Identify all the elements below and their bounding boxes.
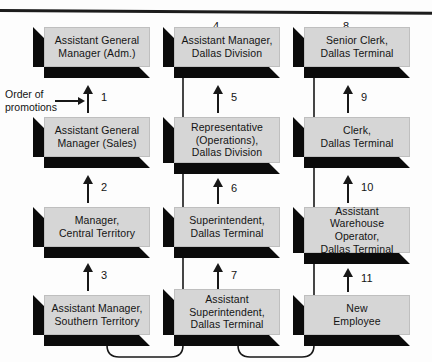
- job-box: Senior Clerk, Dallas Terminal: [293, 27, 410, 78]
- job-box: New Employee: [293, 295, 410, 346]
- job-title-label: Assistant General Manager (Adm.): [44, 27, 150, 67]
- job-title-label: Assistant Superintendent, Dallas Termina…: [174, 289, 280, 335]
- promotion-ladder-diagram: Assistant General Manager (Adm.) 1 Assis…: [0, 0, 432, 362]
- promotion-arrow: [207, 85, 229, 113]
- job-title-label: Assistant Manager, Dallas Division: [174, 27, 280, 67]
- job-title-label: Superintendent, Dallas Terminal: [174, 207, 280, 247]
- job-box: Manager, Central Territory: [33, 207, 150, 258]
- step-number-label: 5: [231, 91, 237, 103]
- job-box: Representative (Operations), Dallas Divi…: [163, 117, 280, 174]
- order-of-promotions-arrow: [55, 96, 85, 106]
- promotion-arrow: [337, 85, 359, 113]
- job-title-label: Clerk, Dallas Terminal: [304, 117, 410, 157]
- job-box: Clerk, Dallas Terminal: [293, 117, 410, 168]
- job-box: Assistant General Manager (Sales): [33, 117, 150, 168]
- step-number-label: 10: [361, 181, 374, 193]
- job-box: Assistant Warehouse Operator, Dallas Ter…: [293, 207, 410, 264]
- job-title-label: Manager, Central Territory: [44, 207, 150, 247]
- step-number-label: 9: [361, 91, 367, 103]
- promotion-arrow: [77, 175, 99, 203]
- job-box: Assistant General Manager (Adm.): [33, 27, 150, 78]
- promotion-arrow: [207, 263, 229, 291]
- job-title-label: Representative (Operations), Dallas Divi…: [174, 117, 280, 163]
- job-title-label: New Employee: [304, 295, 410, 335]
- promotion-arrow: [207, 178, 229, 204]
- promotion-arrow: [77, 263, 99, 291]
- step-number-label: 6: [231, 182, 237, 194]
- step-number-label: 1: [101, 91, 107, 103]
- step-number-label: 7: [231, 269, 237, 281]
- job-title-label: Assistant General Manager (Sales): [44, 117, 150, 157]
- promotion-arrow: [337, 268, 359, 292]
- job-title-label: Assistant Manager, Southern Territory: [44, 295, 150, 335]
- job-box: Assistant Manager, Southern Territory: [33, 295, 150, 346]
- job-box: Assistant Manager, Dallas Division: [163, 27, 280, 78]
- top-divider-rule: [0, 9, 432, 15]
- job-title-label: Assistant Warehouse Operator, Dallas Ter…: [304, 207, 410, 253]
- step-number-label: 3: [101, 269, 107, 281]
- step-number-label: 2: [101, 181, 107, 193]
- job-box: Superintendent, Dallas Terminal: [163, 207, 280, 258]
- step-number-label: 11: [361, 272, 373, 284]
- job-box: Assistant Superintendent, Dallas Termina…: [163, 289, 280, 346]
- promotion-arrow: [337, 175, 359, 203]
- job-title-label: Senior Clerk, Dallas Terminal: [304, 27, 410, 67]
